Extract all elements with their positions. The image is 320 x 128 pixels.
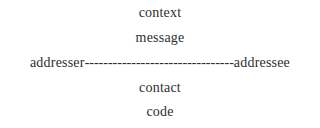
contact-label: contact: [0, 78, 320, 98]
dashed-connector: --------------------------------: [85, 53, 234, 73]
context-label: context: [0, 3, 320, 23]
addresser-addressee-axis: addresser-------------------------------…: [0, 53, 320, 73]
message-label: message: [0, 28, 320, 48]
addressee-label: addressee: [234, 53, 290, 73]
code-label: code: [0, 102, 320, 122]
addresser-label: addresser: [30, 53, 85, 73]
